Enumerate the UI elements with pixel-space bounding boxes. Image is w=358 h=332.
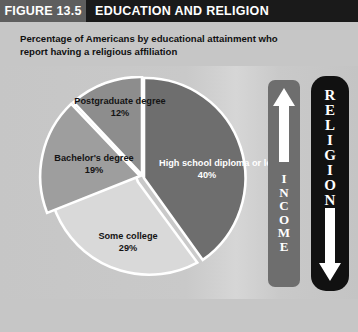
down-arrow-icon: [318, 207, 342, 283]
figure-subtitle: Percentage of Americans by educational a…: [20, 32, 292, 58]
religion-letter-4: G: [311, 148, 349, 163]
income-letter-2: C: [268, 199, 300, 213]
pie-label-some-college-value: 29%: [82, 243, 174, 255]
pie-label-postgraduate: Postgraduate degree 12%: [74, 96, 166, 119]
figure-number: FIGURE 13.5: [0, 0, 86, 22]
source-band: Source: Based on Lugo et al., 2012.: [0, 299, 358, 332]
income-letter-5: E: [268, 240, 300, 254]
pie-label-some-college: Some college 29%: [82, 231, 174, 254]
pie-chart: Postgraduate degree 12% Bachelor's degre…: [26, 76, 258, 281]
pie-label-bachelor: Bachelor's degree 19%: [42, 153, 146, 176]
figure-container: FIGURE 13.5 EDUCATION AND RELIGION Perce…: [0, 0, 358, 332]
income-bar: I N C O M E: [268, 80, 300, 287]
pie-label-high-school-line1: High school diploma or less: [159, 158, 255, 170]
income-letter-0: I: [268, 172, 300, 186]
religion-letter-7: N: [311, 193, 349, 208]
income-letter-1: N: [268, 186, 300, 200]
figure-header-bar: FIGURE 13.5 EDUCATION AND RELIGION: [0, 0, 358, 22]
up-arrow-icon: [272, 86, 296, 164]
chart-panel: Postgraduate degree 12% Bachelor's degre…: [0, 66, 358, 299]
religion-letter-0: R: [311, 88, 349, 103]
income-letter-3: O: [268, 213, 300, 227]
religion-letter-3: I: [311, 133, 349, 148]
religion-bar: R E L I G I O N: [311, 76, 349, 291]
religion-letter-5: I: [311, 163, 349, 178]
pie-label-postgraduate-value: 12%: [74, 108, 166, 120]
religion-letter-6: O: [311, 178, 349, 193]
pie-label-bachelor-line1: Bachelor's degree: [42, 153, 146, 165]
pie-label-postgraduate-line1: Postgraduate degree: [74, 96, 166, 108]
pie-label-some-college-line1: Some college: [82, 231, 174, 243]
religion-bar-label: R E L I G I O N: [311, 88, 349, 208]
income-letter-4: M: [268, 226, 300, 240]
pie-label-high-school-value: 40%: [159, 170, 255, 182]
pie-label-high-school: High school diploma or less 40%: [159, 158, 255, 181]
figure-title: EDUCATION AND RELIGION: [95, 0, 269, 22]
pie-label-bachelor-value: 19%: [42, 165, 146, 177]
income-bar-label: I N C O M E: [268, 172, 300, 253]
religion-letter-2: L: [311, 118, 349, 133]
religion-letter-1: E: [311, 103, 349, 118]
